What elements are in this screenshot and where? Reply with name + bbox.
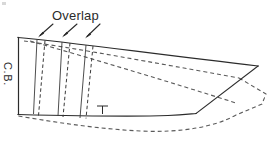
dashed-right-sweep xyxy=(236,78,266,115)
slash-line-2-dashed xyxy=(63,43,70,117)
slash-line-2-solid xyxy=(58,42,62,116)
slash-line-3-dashed xyxy=(86,46,93,119)
solid-top-edge xyxy=(18,38,258,67)
pattern-overlap-diagram: Overlap C.B. xyxy=(0,0,270,152)
overlap-arrow-1 xyxy=(38,24,53,38)
slash-line-1-dashed xyxy=(39,41,46,116)
solid-right-edge xyxy=(196,66,258,114)
overlap-label: Overlap xyxy=(52,9,99,22)
slash-line-1-solid xyxy=(34,40,38,115)
overlap-slash-lines xyxy=(34,40,94,119)
pattern-drawing-canvas xyxy=(0,0,270,152)
solid-bottom-edge xyxy=(18,114,196,117)
overlap-arrow-2 xyxy=(62,24,77,38)
notch-mark xyxy=(97,106,108,114)
solid-pattern-shape xyxy=(18,38,258,117)
slash-line-3-solid xyxy=(80,45,86,118)
scan-corner-speck xyxy=(2,2,6,5)
overlap-arrows xyxy=(38,24,100,39)
dashed-pattern-shape xyxy=(18,41,266,131)
center-back-label: C.B. xyxy=(2,62,13,86)
overlap-arrow-3 xyxy=(85,24,100,39)
dashed-bottom-edge xyxy=(18,115,236,131)
